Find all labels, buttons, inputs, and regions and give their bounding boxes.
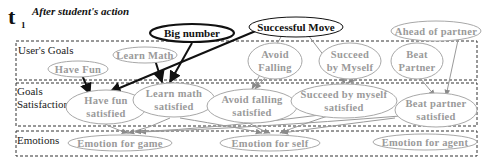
svg-text:Successful Move: Successful Move (257, 21, 334, 33)
edge-ahead-of-partner-to-beat-partner-satisfied (446, 40, 458, 96)
svg-text:Emotion for game: Emotion for game (77, 138, 163, 149)
time-subscript: 1 (21, 20, 26, 30)
section-label-goals-satisfaction-line1: Goals (17, 85, 43, 97)
satisfaction-node-avoid-falling: Avoid falling satisfied (207, 89, 297, 123)
emotion-node-game: Emotion for game (68, 135, 172, 151)
svg-text:satisfied: satisfied (232, 107, 271, 118)
svg-text:Big number: Big number (164, 27, 220, 39)
svg-text:Learn Math: Learn Math (116, 50, 174, 61)
svg-text:Succeed by myself: Succeed by myself (301, 89, 388, 100)
svg-text:Ahead of partner: Ahead of partner (395, 26, 477, 37)
goal-node-have-fun: Have Fun (48, 61, 108, 77)
section-label-goals-satisfaction-line2: Satisfaction (17, 98, 69, 110)
svg-text:Falling: Falling (258, 62, 292, 73)
event-node-big-number: Big number (150, 24, 234, 42)
time-symbol: t (8, 4, 16, 29)
section-label-users-goals: User's Goals (18, 44, 73, 56)
svg-text:Partner: Partner (398, 62, 435, 73)
event-node-successful-move: Successful Move (249, 17, 343, 37)
svg-text:Emotion for agent: Emotion for agent (382, 137, 469, 148)
svg-text:Avoid falling: Avoid falling (221, 94, 283, 105)
diagram-header: t 1 After student's action (8, 4, 129, 30)
svg-text:Beat: Beat (406, 49, 428, 60)
satisfaction-node-beat-partner: Beat partner satisfied (395, 93, 477, 127)
svg-text:Learn math: Learn math (146, 88, 202, 99)
goal-node-succeed-by-myself: Succeed by Myself (319, 43, 381, 79)
satisfaction-node-learn-math: Learn math satisfied (133, 83, 215, 117)
section-label-emotions: Emotions (17, 134, 59, 146)
svg-text:Have fun: Have fun (84, 95, 128, 106)
svg-text:satisfied: satisfied (416, 111, 455, 122)
event-node-ahead-of-partner: Ahead of partner (391, 21, 481, 41)
emotion-node-self: Emotion for self (220, 135, 320, 151)
svg-text:Beat partner: Beat partner (405, 98, 466, 109)
diagram-caption: After student's action (31, 5, 129, 17)
satisfaction-node-have-fun: Have fun satisfied (66, 90, 146, 124)
svg-text:by Myself: by Myself (327, 62, 374, 73)
svg-text:Succeed: Succeed (331, 49, 369, 60)
svg-text:satisfied: satisfied (86, 108, 125, 119)
goal-node-learn-math: Learn Math (113, 47, 177, 63)
svg-text:Have Fun: Have Fun (55, 64, 101, 75)
emotion-node-agent: Emotion for agent (373, 134, 477, 150)
goal-node-beat-partner: Beat Partner (391, 43, 443, 79)
svg-text:Avoid: Avoid (261, 49, 289, 60)
affective-model-diagram: t 1 After student's action User's Goals … (0, 0, 496, 163)
svg-text:satisfied: satisfied (154, 101, 193, 112)
svg-text:satisfied: satisfied (324, 102, 363, 113)
satisfaction-node-succeed-by-myself: Succeed by myself satisfied (291, 84, 397, 118)
goal-node-avoid-falling: Avoid Falling (248, 43, 302, 79)
svg-text:Emotion for self: Emotion for self (232, 138, 309, 149)
